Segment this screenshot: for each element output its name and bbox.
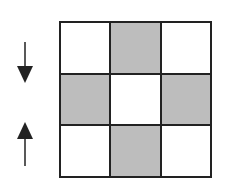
grid-cell-0-1-shaded <box>110 22 160 74</box>
three-by-three-grid <box>59 21 212 178</box>
grid-cell-1-1-white <box>110 74 160 126</box>
grid-cell-0-0-white <box>60 22 110 74</box>
grid-cell-1-0-shaded <box>60 74 110 126</box>
grid-cell-2-0-white <box>60 125 110 177</box>
up-arrow-icon <box>14 122 36 166</box>
grid-cell-2-2-white <box>161 125 211 177</box>
down-arrow-icon <box>14 42 36 84</box>
grid-cell-2-1-shaded <box>110 125 160 177</box>
grid-cell-0-2-white <box>161 22 211 74</box>
grid-cell-1-2-shaded <box>161 74 211 126</box>
